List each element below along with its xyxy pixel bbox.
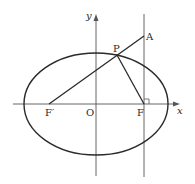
segment-PF — [117, 55, 144, 104]
origin-label: O — [86, 107, 94, 118]
point-P-label: P — [113, 43, 120, 54]
ellipse-diagram: y x O P A F F′ — [0, 0, 195, 184]
point-F-prime-label: F′ — [45, 107, 55, 118]
right-angle-mark — [144, 99, 149, 104]
y-axis-arrow-icon — [94, 14, 99, 21]
point-A-label: A — [145, 31, 154, 42]
y-axis-label: y — [85, 10, 92, 21]
segment-F-prime-A — [49, 36, 144, 104]
point-F-label: F — [137, 107, 144, 118]
x-axis-label: x — [177, 105, 183, 116]
